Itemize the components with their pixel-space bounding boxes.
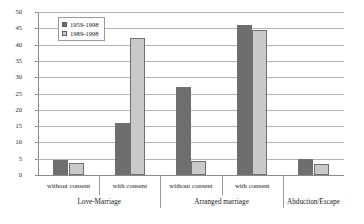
bar-chart: 50454035302520151050 without consentwith… [0,0,364,224]
legend-swatch-1989-1998 [62,31,67,36]
bar [252,30,267,175]
legend-item-series-1: 1989-1998 [62,29,99,38]
bar [191,161,206,175]
y-tick-label: 25 [0,91,22,98]
bar [130,38,145,175]
y-tick-label: 15 [0,123,22,130]
legend-item-series-0: 1959-1998 [62,20,99,29]
group-label: Love-Marriage [38,198,160,207]
category-label: without consent [38,182,99,190]
legend: 1959-1998 1989-1998 [58,17,105,41]
category-label: with consent [99,182,160,190]
y-tick-label: 10 [0,139,22,146]
bar [314,164,329,175]
group-label: Abduction/Escape [283,198,344,207]
y-tick-label: 20 [0,107,22,114]
bar [115,123,130,175]
y-tick-mark [35,175,38,176]
category-label: without consent [160,182,221,190]
y-tick-label: 45 [0,25,22,32]
legend-label-series-1: 1989-1998 [70,30,99,37]
y-tick-label: 35 [0,58,22,65]
x-axis-line [38,175,344,176]
y-tick-label: 30 [0,74,22,81]
y-tick-label: 40 [0,42,22,49]
y-tick-label: 0 [0,172,22,179]
bar [298,159,313,175]
bar [176,87,191,175]
y-tick-label: 5 [0,156,22,163]
legend-label-series-0: 1959-1998 [70,21,99,28]
bar [53,160,68,175]
category-label: with consent [222,182,283,190]
group-label: Arranged marriage [160,198,282,207]
legend-swatch-1959-1998 [62,22,67,27]
bar [237,25,252,175]
y-tick-label: 50 [0,9,22,16]
bar [69,163,84,175]
